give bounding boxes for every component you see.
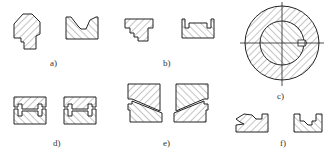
part-d-left-upper <box>14 97 46 109</box>
panel-f: f) <box>236 114 322 148</box>
part-b-left-profile <box>125 19 153 41</box>
label-c: c) <box>277 91 284 101</box>
panel-b: b) <box>125 19 214 68</box>
panel-d: d) <box>14 97 96 148</box>
label-f: f) <box>280 138 286 148</box>
part-d-right-upper <box>64 97 96 109</box>
part-f-right-profile <box>294 114 322 132</box>
part-a-right-profile <box>66 17 98 39</box>
part-d-right-lower <box>64 109 96 124</box>
label-b: b) <box>163 58 171 68</box>
panel-e: e) <box>128 84 208 148</box>
panel-c: c) <box>240 2 324 101</box>
part-d-left-lower <box>14 109 46 124</box>
part-f-left-profile <box>236 114 268 132</box>
label-a: a) <box>50 58 57 68</box>
label-e: e) <box>163 138 170 148</box>
part-b-right-profile <box>182 19 214 38</box>
panel-a: a) <box>14 14 98 68</box>
part-a-left-profile <box>14 14 40 49</box>
label-d: d) <box>53 138 61 148</box>
figure-canvas: a) b) c) d) e) f) <box>0 0 334 159</box>
